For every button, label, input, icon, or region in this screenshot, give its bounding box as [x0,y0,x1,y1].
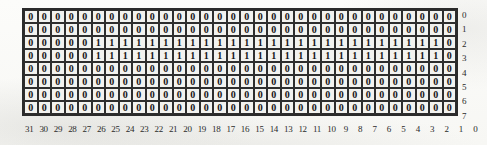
bit-cell[interactable]: 0 [335,10,349,23]
bit-cell[interactable]: 1 [119,36,133,49]
bit-cell[interactable]: 1 [416,49,430,62]
bit-cell[interactable]: 0 [429,62,443,75]
bit-cell[interactable]: 0 [105,23,119,36]
bit-cell[interactable]: 0 [443,88,457,101]
bit-cell[interactable]: 0 [375,101,389,114]
bit-cell[interactable]: 1 [267,36,281,49]
bit-cell[interactable]: 0 [402,10,416,23]
bit-cell[interactable]: 0 [213,62,227,75]
bit-cell[interactable]: 1 [348,49,362,62]
bit-cell[interactable]: 0 [294,10,308,23]
bit-cell[interactable]: 0 [308,88,322,101]
bit-cell[interactable]: 1 [213,49,227,62]
bit-cell[interactable]: 0 [105,75,119,88]
bit-cell[interactable]: 0 [267,10,281,23]
bit-cell[interactable]: 0 [186,23,200,36]
bit-cell[interactable]: 1 [362,36,376,49]
bit-cell[interactable]: 0 [267,75,281,88]
bit-cell[interactable]: 0 [402,88,416,101]
bit-cell[interactable]: 0 [254,10,268,23]
bit-cell[interactable]: 0 [227,23,241,36]
bit-cell[interactable]: 0 [267,88,281,101]
bit-cell[interactable]: 1 [92,36,106,49]
bit-cell[interactable]: 0 [173,10,187,23]
bit-cell[interactable]: 0 [186,101,200,114]
bit-cell[interactable]: 0 [173,101,187,114]
bit-cell[interactable]: 0 [281,62,295,75]
bit-cell[interactable]: 0 [227,10,241,23]
bit-cell[interactable]: 0 [443,75,457,88]
bit-cell[interactable]: 0 [321,10,335,23]
bit-cell[interactable]: 0 [416,10,430,23]
bit-cell[interactable]: 0 [389,62,403,75]
bit-cell[interactable]: 1 [186,49,200,62]
bit-cell[interactable]: 0 [132,23,146,36]
bit-cell[interactable]: 1 [429,49,443,62]
bit-cell[interactable]: 0 [146,10,160,23]
bit-cell[interactable]: 0 [186,62,200,75]
bit-cell[interactable]: 0 [146,23,160,36]
bit-cell[interactable]: 1 [146,49,160,62]
bit-cell[interactable]: 0 [65,10,79,23]
bit-cell[interactable]: 0 [294,75,308,88]
bit-cell[interactable]: 0 [416,88,430,101]
bit-cell[interactable]: 0 [254,75,268,88]
bit-cell[interactable]: 0 [308,10,322,23]
bit-cell[interactable]: 0 [227,75,241,88]
bit-cell[interactable]: 1 [200,36,214,49]
bit-cell[interactable]: 0 [38,10,52,23]
bit-cell[interactable]: 0 [429,75,443,88]
bit-cell[interactable]: 0 [294,23,308,36]
bit-cell[interactable]: 0 [186,75,200,88]
bit-cell[interactable]: 0 [200,75,214,88]
bit-cell[interactable]: 0 [159,23,173,36]
bit-cell[interactable]: 0 [105,62,119,75]
bit-cell[interactable]: 0 [24,62,38,75]
bit-cell[interactable]: 0 [24,36,38,49]
bit-cell[interactable]: 0 [78,62,92,75]
bit-cell[interactable]: 1 [362,49,376,62]
bit-cell[interactable]: 1 [281,49,295,62]
bit-cell[interactable]: 0 [294,62,308,75]
bit-cell[interactable]: 0 [335,75,349,88]
bit-cell[interactable]: 0 [65,23,79,36]
bit-cell[interactable]: 0 [78,23,92,36]
bit-cell[interactable]: 0 [78,49,92,62]
bit-cell[interactable]: 0 [348,75,362,88]
bit-cell[interactable]: 0 [321,75,335,88]
bit-cell[interactable]: 0 [375,75,389,88]
bit-cell[interactable]: 0 [375,88,389,101]
bit-cell[interactable]: 0 [38,36,52,49]
bit-cell[interactable]: 0 [213,10,227,23]
bit-cell[interactable]: 0 [294,88,308,101]
bit-cell[interactable]: 0 [335,88,349,101]
bit-cell[interactable]: 0 [308,101,322,114]
bit-cell[interactable]: 0 [159,10,173,23]
bit-cell[interactable]: 0 [38,75,52,88]
bit-cell[interactable]: 0 [240,10,254,23]
bit-cell[interactable]: 0 [429,101,443,114]
bit-cell[interactable]: 0 [119,62,133,75]
bit-cell[interactable]: 0 [146,88,160,101]
bit-cell[interactable]: 1 [105,36,119,49]
bit-cell[interactable]: 0 [321,62,335,75]
bit-cell[interactable]: 1 [92,49,106,62]
bit-cell[interactable]: 0 [24,88,38,101]
bit-cell[interactable]: 0 [132,62,146,75]
bit-cell[interactable]: 0 [429,10,443,23]
bit-cell[interactable]: 0 [213,101,227,114]
bit-cell[interactable]: 0 [78,36,92,49]
bit-cell[interactable]: 0 [254,101,268,114]
bit-cell[interactable]: 0 [92,75,106,88]
bit-cell[interactable]: 0 [51,75,65,88]
bit-cell[interactable]: 0 [24,101,38,114]
bit-cell[interactable]: 0 [159,88,173,101]
bit-cell[interactable]: 0 [119,75,133,88]
bit-cell[interactable]: 0 [146,101,160,114]
bit-cell[interactable]: 0 [389,23,403,36]
bit-cell[interactable]: 1 [132,36,146,49]
bit-cell[interactable]: 1 [335,36,349,49]
bit-cell[interactable]: 0 [267,23,281,36]
bit-cell[interactable]: 0 [119,101,133,114]
bit-cell[interactable]: 0 [173,62,187,75]
